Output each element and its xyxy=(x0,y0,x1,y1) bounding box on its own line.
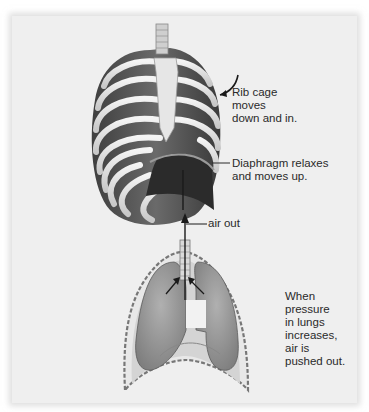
lungs xyxy=(124,240,248,390)
diaphragm-label: Diaphragm relaxes and moves up. xyxy=(232,157,329,183)
rib-cage-label: Rib cage moves down and in. xyxy=(232,86,297,125)
air-out-label: air out xyxy=(208,217,240,230)
rib-cage xyxy=(92,24,221,225)
pressure-label: When pressure in lungs increases, air is… xyxy=(285,290,345,368)
